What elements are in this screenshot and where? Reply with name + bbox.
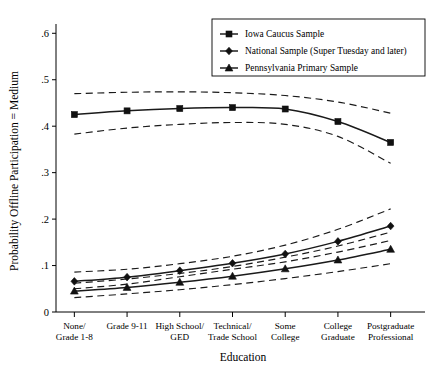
data-point-marker xyxy=(387,222,394,230)
data-point-marker xyxy=(387,245,395,252)
data-point-marker xyxy=(282,106,288,112)
y-tick-label: .1 xyxy=(41,260,49,271)
x-axis-title: Education xyxy=(220,351,267,363)
series-triangle xyxy=(70,245,394,294)
data-point-marker xyxy=(177,106,183,112)
x-category-label: Technical/Trade School xyxy=(208,321,257,342)
svg-text:Trade School: Trade School xyxy=(208,332,257,342)
data-point-marker xyxy=(124,273,131,281)
chart-legend: Iowa Caucus SampleNational Sample (Super… xyxy=(212,19,425,76)
svg-text:Graduate: Graduate xyxy=(321,332,355,342)
data-point-marker xyxy=(230,105,236,111)
data-point-marker xyxy=(335,238,342,246)
svg-text:Professional: Professional xyxy=(368,332,414,342)
data-point-marker xyxy=(388,139,394,145)
data-point-marker xyxy=(124,108,130,114)
x-category-label: PostgraduateProfessional xyxy=(367,321,414,342)
series-square xyxy=(71,92,393,164)
x-axis-ticks xyxy=(74,312,390,317)
legend-marker-square xyxy=(226,31,232,37)
legend-item-label: Iowa Caucus Sample xyxy=(245,29,324,39)
svg-text:College: College xyxy=(324,321,353,331)
y-tick-label: .5 xyxy=(41,74,49,85)
svg-text:High School/: High School/ xyxy=(155,321,204,331)
data-point-marker xyxy=(335,119,341,125)
offline-participation-chart: 0.1.2.3.4.5.6 None/Grade 1-8Grade 9-11Hi… xyxy=(0,0,430,371)
x-category-label: Grade 9-11 xyxy=(106,321,148,331)
x-axis-group: None/Grade 1-8Grade 9-11High School/GEDT… xyxy=(56,312,425,342)
x-category-label: High School/GED xyxy=(155,321,204,342)
confidence-band-lower xyxy=(74,264,390,298)
series-line xyxy=(74,107,390,142)
svg-text:Grade 1-8: Grade 1-8 xyxy=(56,332,93,342)
x-category-label: SomeCollege xyxy=(271,321,300,342)
svg-text:None/: None/ xyxy=(63,321,86,331)
legend-item-label: Pennsylvania Primary Sample xyxy=(245,63,358,73)
y-tick-label: .3 xyxy=(41,167,49,178)
svg-text:Postgraduate: Postgraduate xyxy=(367,321,414,331)
y-tick-label: .2 xyxy=(41,214,49,225)
y-tick-label: 0 xyxy=(44,307,49,318)
chart-svg: 0.1.2.3.4.5.6 None/Grade 1-8Grade 9-11Hi… xyxy=(0,0,430,371)
data-point-marker xyxy=(71,278,78,286)
svg-text:College: College xyxy=(271,332,300,342)
legend-item-label: National Sample (Super Tuesday and later… xyxy=(245,46,407,57)
confidence-band-lower xyxy=(74,122,390,163)
y-axis-ticks: 0.1.2.3.4.5.6 xyxy=(41,28,56,318)
y-tick-label: .6 xyxy=(41,28,49,39)
series-plot-group xyxy=(70,92,394,298)
svg-text:Some: Some xyxy=(275,321,296,331)
x-axis-category-labels: None/Grade 1-8Grade 9-11High School/GEDT… xyxy=(56,321,415,342)
data-point-marker xyxy=(71,112,77,118)
data-point-marker xyxy=(282,250,289,258)
x-category-label: None/Grade 1-8 xyxy=(56,321,93,342)
svg-text:Grade 9-11: Grade 9-11 xyxy=(106,321,148,331)
y-tick-label: .4 xyxy=(41,121,50,132)
svg-text:Technical/: Technical/ xyxy=(213,321,252,331)
svg-text:GED: GED xyxy=(170,332,189,342)
y-axis-group: 0.1.2.3.4.5.6 xyxy=(41,24,56,318)
legend-item: National Sample (Super Tuesday and later… xyxy=(220,46,407,57)
y-axis-title: Probability Offline Participation = Medi… xyxy=(8,71,21,271)
x-category-label: CollegeGraduate xyxy=(321,321,355,342)
